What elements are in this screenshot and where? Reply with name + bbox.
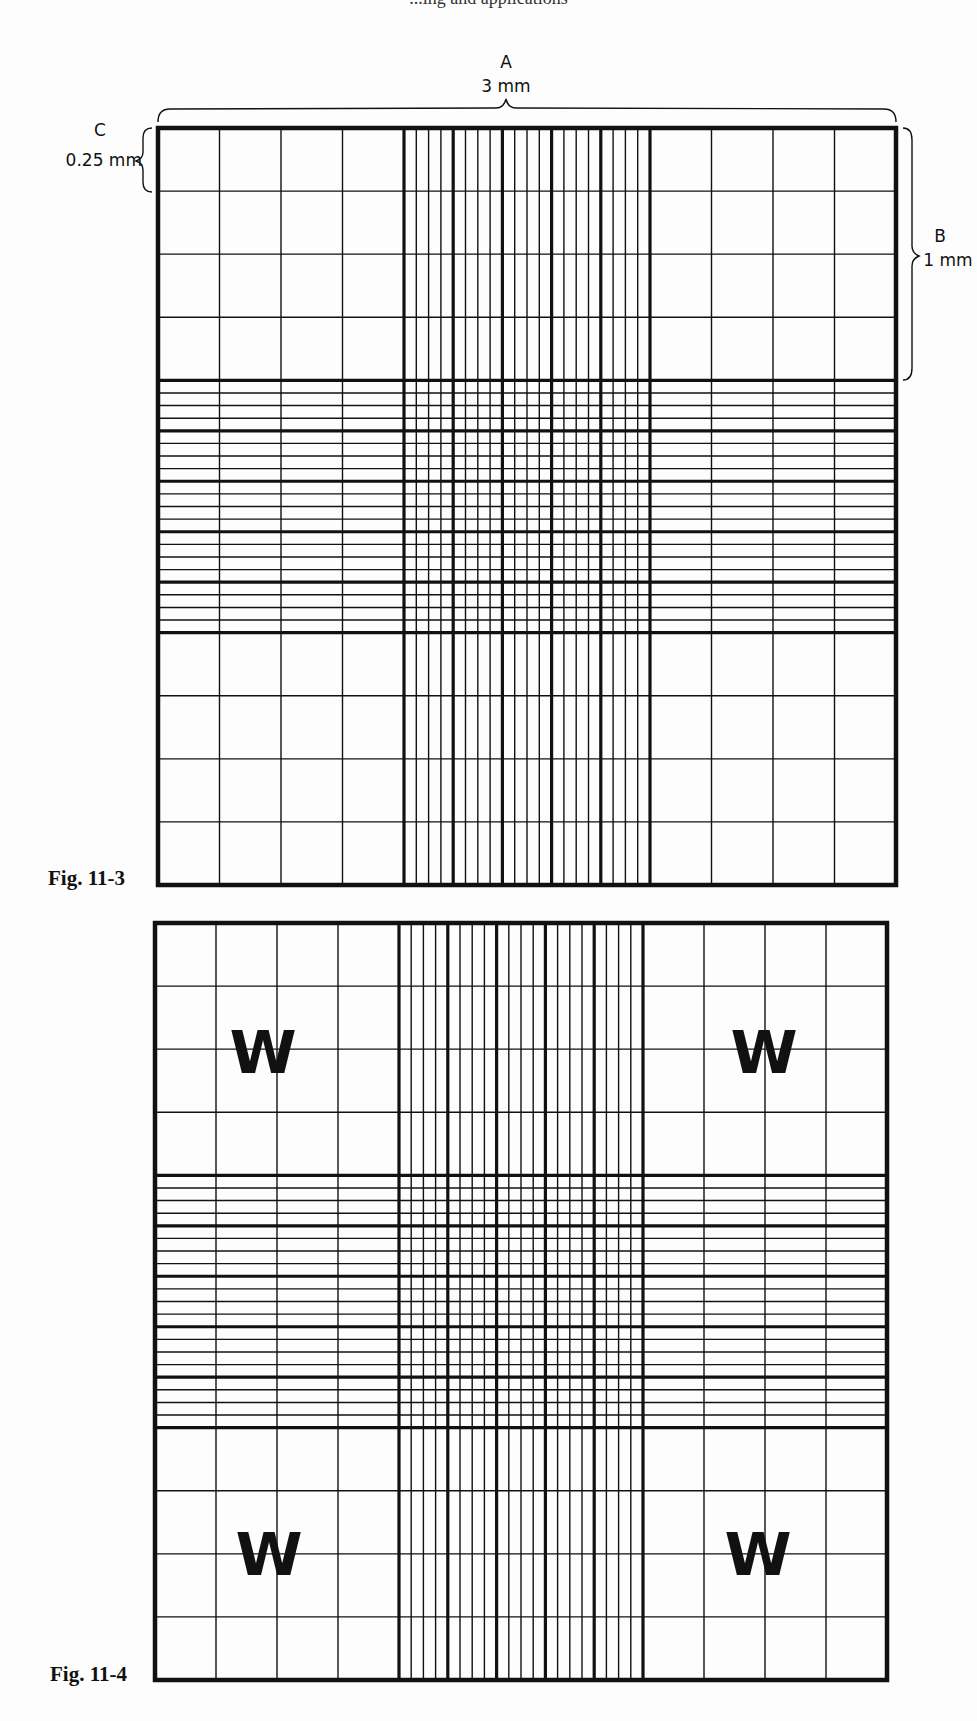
w-label-top-right: W <box>730 1024 797 1082</box>
w-label-bottom-left: W <box>235 1526 302 1584</box>
w-label-bottom-right: W <box>724 1526 791 1584</box>
hemocytometer-grid-drawing <box>0 0 977 1721</box>
w-label-top-left: W <box>229 1024 296 1082</box>
